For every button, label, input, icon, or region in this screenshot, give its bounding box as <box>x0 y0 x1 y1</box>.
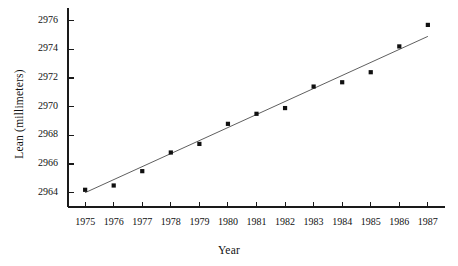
x-axis-title: Year <box>0 244 458 256</box>
data-point-marker <box>340 80 344 84</box>
data-points <box>83 23 430 192</box>
data-point-marker <box>112 183 116 187</box>
data-point-marker <box>197 142 201 146</box>
y-tick-label: 2972 <box>24 71 58 82</box>
y-tick-label: 2974 <box>24 42 58 53</box>
data-point-marker <box>426 23 430 27</box>
data-point-marker <box>226 122 230 126</box>
y-tick-label: 2968 <box>24 128 58 139</box>
data-point-marker <box>397 44 401 48</box>
scatter-chart-figure: 2964296629682970297229742976 19751976197… <box>0 0 458 266</box>
data-point-marker <box>369 70 373 74</box>
data-point-marker <box>312 84 316 88</box>
y-tick-label: 2970 <box>24 100 58 111</box>
tick-marks <box>68 21 428 207</box>
y-axis-title: Lean (millimeters) <box>13 44 25 184</box>
data-point-marker <box>140 169 144 173</box>
y-tick-label: 2966 <box>24 157 58 168</box>
data-point-marker <box>283 106 287 110</box>
x-tick-label: 1987 <box>411 216 445 227</box>
axes <box>68 8 445 207</box>
y-tick-label: 2964 <box>24 186 58 197</box>
data-point-marker <box>169 150 173 154</box>
y-tick-label: 2976 <box>24 14 58 25</box>
data-point-marker <box>254 112 258 116</box>
data-point-marker <box>83 188 87 192</box>
